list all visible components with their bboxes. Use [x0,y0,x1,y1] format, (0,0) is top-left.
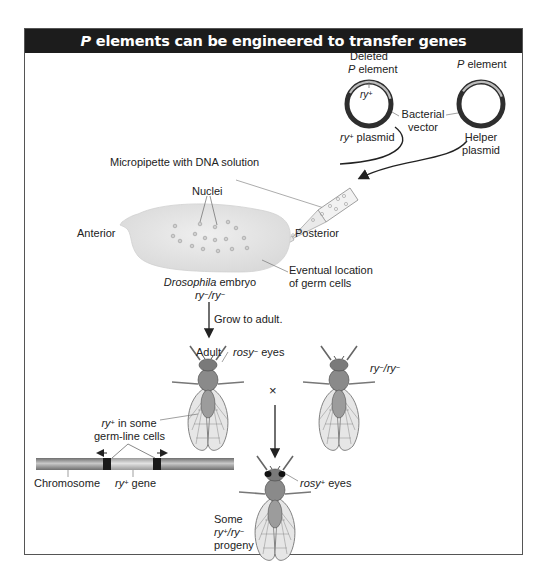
embryo-label: Drosophila embryo ry−/ry− [160,276,260,302]
deleted-label-line2: P element [348,63,390,76]
adult-label: Adult [196,346,221,359]
progeny-label: Some ry+/ry− progeny [214,513,254,552]
allele-a: ry [370,362,379,374]
sup: + [111,418,115,427]
ry-plus-plasmid [339,74,399,134]
nuclei-label: Nuclei [192,185,223,198]
embryo-genotype: ry−/ry− [160,289,260,302]
rosy-minus-eyes-label: rosy− eyes [233,346,284,359]
rosy-italic: rosy [233,346,254,358]
germ-cells-label: Eventual location of germ cells [289,264,373,290]
gene-text: gene [129,477,157,489]
germ-cells-line1: Eventual location [289,264,373,277]
helper-line1: Helper [459,131,503,144]
allele-b: ry [231,526,240,538]
germ-cells-line2: of germ cells [289,277,373,290]
p-element-label: P element [457,58,507,71]
rosy-plus-leader [286,474,298,481]
helper-plasmid-label: Helper plasmid [459,131,503,157]
sup: + [223,527,227,536]
ry-germline-label: ry+ in some germ-line cells [94,417,164,443]
helper-plasmid [450,73,511,134]
sup: − [204,290,208,299]
ry-italic: ry [115,477,124,489]
ry-italic: ry [340,131,349,143]
posterior-label: Posterior [295,227,339,240]
embryo-name: Drosophila embryo [160,276,260,289]
bacterial-vector-label: Bacterial vector [401,108,445,134]
anterior-label: Anterior [77,227,116,240]
sup: + [124,478,128,487]
drosophila-italic: Drosophila [164,276,217,288]
eyes-text: eyes [258,346,284,358]
ry-in-some: ry+ in some [94,417,164,430]
vector-leader-left [392,112,399,116]
germline-text: germ-line cells [94,430,164,443]
vector-leader-right [446,113,458,115]
cross-symbol: × [269,384,277,397]
drosophila-embryo [120,196,290,272]
rosy-minus-leader [222,352,228,362]
rosy-plus-eyes-label: rosy+ eyes [300,477,351,490]
progeny-text: progeny [214,539,254,552]
deleted-p-element-label: Deleted P element [348,50,390,76]
mate-genotype-label: ry−/ry− [370,362,400,375]
element-text: element [464,58,506,70]
adult-fly-injected [172,346,244,450]
ry-plus-insert-label: ry+ [360,88,373,101]
element-text: element [355,63,397,75]
allele-a: ry [195,289,204,301]
rosy-italic: rosy [300,477,321,489]
sup: − [240,527,244,536]
plasmid-text: plasmid [354,131,395,143]
some-text: Some [214,513,254,526]
ry-italic: ry [101,417,110,429]
sup: − [254,347,258,356]
grow-to-adult-label: Grow to adult. [214,313,282,326]
sup: + [368,89,372,98]
in-some-text: in some [115,417,157,429]
ry-plus-plasmid-label: ry+ plasmid [340,131,395,144]
eyes-text: eyes [325,477,351,489]
allele-b: ry [212,289,221,301]
deleted-label-line1: Deleted [348,50,390,63]
chromosome-label: Chromosome [34,477,100,490]
micropipette-label: Micropipette with DNA solution [110,156,259,169]
sup: + [349,132,353,141]
helper-line2: plasmid [459,144,503,157]
embryo-text: embryo [216,276,256,288]
mate-fly [303,346,375,450]
vector-line1: Bacterial [401,108,445,121]
sup: − [221,290,225,299]
allele-a: ry [214,526,223,538]
sup: − [379,363,383,372]
sup: + [321,478,325,487]
allele-b: ry [387,362,396,374]
ry-plus-gene-label: ry+ gene [115,477,156,490]
sup: − [396,363,400,372]
vector-line2: vector [401,121,445,134]
progeny-genotype: ry+/ry− [214,526,254,539]
